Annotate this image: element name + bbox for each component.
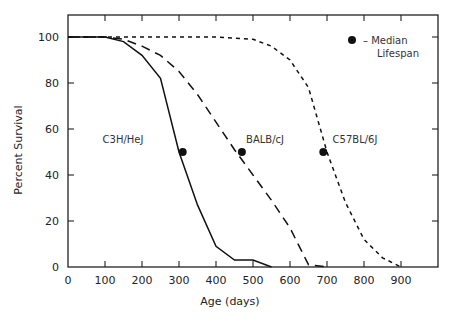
y-tick-80: 80 [45,77,59,90]
y-tick-60: 60 [45,123,59,136]
x-tick-300: 300 [169,274,190,287]
series-label-c3h: C3H/HeJ [103,134,144,145]
x-tick-400: 400 [206,274,227,287]
series-label-c57: C57BL/6J [333,134,378,145]
x-tick-800: 800 [354,274,375,287]
series-label-balb: BALB/cJ [246,134,284,145]
x-tick-900: 900 [391,274,412,287]
legend-median-marker-icon [348,36,356,44]
x-tick-100: 100 [95,274,116,287]
series-line-1 [68,37,327,267]
legend-median-text: – Median [363,35,408,46]
y-tick-0: 0 [52,261,59,274]
x-tick-700: 700 [317,274,338,287]
x-axis-title: Age (days) [200,295,259,308]
x-tick-0: 0 [65,274,72,287]
y-axis-title: Percent Survival [12,105,25,194]
y-tick-40: 40 [45,169,59,182]
x-tick-600: 600 [280,274,301,287]
y-tick-20: 20 [45,215,59,228]
x-tick-500: 500 [243,274,264,287]
tick-labels: 0 100 200 300 400 500 600 700 800 900 0 … [38,31,412,287]
series-line-2 [68,37,401,267]
survival-chart: 0 100 200 300 400 500 600 700 800 900 0 … [0,0,451,321]
legend-lifespan-text: Lifespan [377,48,419,59]
median-marker-icon [238,148,246,156]
series-lines [68,37,401,267]
y-tick-100: 100 [38,31,59,44]
median-marker-icon [319,148,327,156]
x-tick-200: 200 [132,274,153,287]
median-marker-icon [179,148,187,156]
median-markers [179,148,328,156]
